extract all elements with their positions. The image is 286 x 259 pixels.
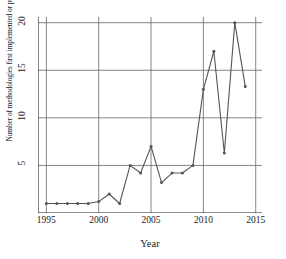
y-tick-label: 10 xyxy=(17,105,27,127)
gridlines xyxy=(38,17,262,213)
axis-lines xyxy=(38,17,262,213)
y-tick-label: 15 xyxy=(17,57,27,79)
line-chart-svg xyxy=(38,17,262,213)
y-tick-label: 5 xyxy=(17,152,27,174)
data-point-markers xyxy=(45,21,247,205)
x-tick-label: 2000 xyxy=(79,215,119,225)
x-tick-label: 1995 xyxy=(26,215,66,225)
x-tick-label: 2005 xyxy=(131,215,171,225)
chart-figure: Number of methodologies first implemente… xyxy=(0,0,286,259)
x-tick-label: 2015 xyxy=(236,215,276,225)
y-tick-label: 20 xyxy=(17,10,27,32)
chart-title xyxy=(40,0,240,4)
data-series-line xyxy=(46,23,245,204)
x-tick-label: 2010 xyxy=(183,215,223,225)
x-axis-label: Year xyxy=(38,238,262,249)
plot-area xyxy=(38,17,262,213)
